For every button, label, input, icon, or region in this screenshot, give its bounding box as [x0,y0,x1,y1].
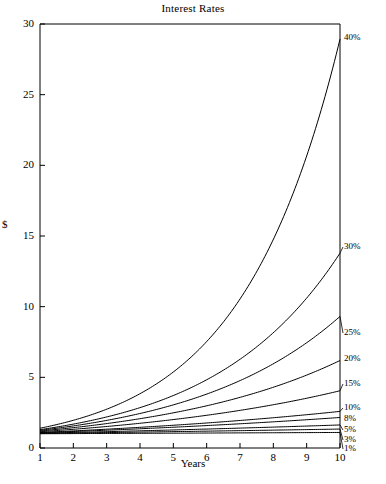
chart-canvas [0,0,386,484]
x-tick-label: 1 [30,451,50,463]
series-line [40,253,340,430]
x-tick-label: 7 [230,451,250,463]
x-tick-label: 2 [63,451,83,463]
series-line [40,391,340,432]
series-label: 10% [344,402,361,412]
series-lines [40,39,340,434]
series-label: 5% [344,424,356,434]
x-tick-label: 9 [297,451,317,463]
x-tick-label: 4 [130,451,150,463]
series-label: 25% [344,327,361,337]
x-tick-label: 3 [97,451,117,463]
series-label: 40% [344,32,361,42]
x-tick-label: 5 [163,451,183,463]
series-label: 1% [344,443,356,453]
x-tick-label: 8 [263,451,283,463]
series-line [40,316,340,430]
y-tick-label: 5 [8,370,34,382]
interest-rates-chart: Interest Rates $ Years 051015202530 1234… [0,0,386,484]
y-tick-label: 15 [8,229,34,241]
series-label: 20% [344,353,361,363]
axis-ticks [40,24,340,448]
y-tick-label: 30 [8,17,34,29]
y-tick-label: 25 [8,88,34,100]
y-tick-label: 20 [8,158,34,170]
series-label: 15% [344,378,361,388]
series-label: 30% [344,241,361,251]
x-tick-label: 6 [197,451,217,463]
axes [40,24,340,448]
series-line [40,39,340,428]
series-label: 8% [344,413,356,423]
y-tick-label: 10 [8,300,34,312]
